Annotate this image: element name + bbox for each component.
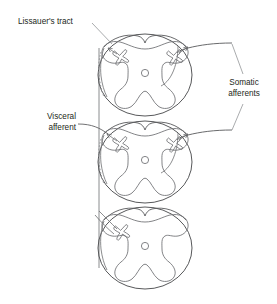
central-canal <box>141 242 148 249</box>
somatic-afferents-leader-lower <box>232 104 243 130</box>
gray-matter-butterfly <box>102 214 188 281</box>
middle-cord-section <box>98 121 232 203</box>
somatic-afferent-fiber-middle <box>177 130 232 140</box>
spinal-cord-diagram: Lissauer's tract Visceral afferent Somat… <box>0 0 277 304</box>
somatic-afferents-label-line2: afferents <box>228 89 260 98</box>
somatic-afferents-label-line1: Somatic <box>229 78 259 87</box>
central-canal <box>141 69 148 76</box>
descending-collateral-fiber-2 <box>95 215 114 234</box>
somatic-afferents-leader-upper <box>232 44 243 74</box>
left-neuron-x-marker <box>114 225 130 240</box>
central-canal <box>141 156 148 163</box>
lissauers-tract-leader <box>92 23 112 44</box>
visceral-afferent-label-line2: afferent <box>48 123 76 132</box>
somatic-afferent-fiber-upper <box>177 43 232 53</box>
upper-cord-section <box>98 34 232 116</box>
lissauers-tract-label: Lissauer's tract <box>18 17 74 26</box>
lower-cord-section <box>95 207 192 289</box>
diagram-canvas: Lissauer's tract Visceral afferent Somat… <box>0 0 277 304</box>
visceral-afferent-leader <box>78 124 108 134</box>
white-matter-outline <box>98 207 192 289</box>
visceral-afferent-label-line1: Visceral <box>47 112 76 121</box>
